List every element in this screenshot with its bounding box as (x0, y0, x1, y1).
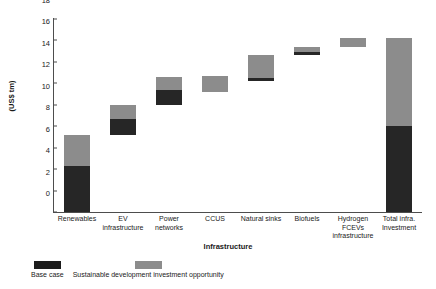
y-tick-mark (54, 169, 57, 170)
category-label: Biofuels (284, 215, 330, 224)
bar-biofuels[interactable] (294, 19, 320, 212)
bar-segment-opportunity (386, 38, 412, 126)
legend-item-opportunity: Sustainable development investment oppor… (73, 261, 224, 278)
category-label: Hydrogen FCEVs infrastructure (330, 215, 376, 241)
bar-segment-opportunity (340, 38, 366, 47)
bar-segment-base-case (110, 119, 136, 135)
y-tick-mark (54, 83, 57, 84)
bar-segment-opportunity (294, 47, 320, 52)
bar-segment-base-case (248, 78, 274, 81)
y-axis-title: (US$ tm) (7, 81, 16, 112)
y-tick-label: 16 (42, 17, 50, 26)
bar-hydrogen-fcevs-infrastructure[interactable] (340, 19, 366, 212)
bar-total-infra-investment[interactable] (386, 19, 412, 212)
bar-natural-sinks[interactable] (248, 19, 274, 212)
bar-segment-base-case (386, 126, 412, 212)
bar-segment-opportunity (156, 77, 182, 90)
bar-segment-base-case (64, 166, 90, 212)
bar-ev-infrastructure[interactable] (110, 19, 136, 212)
chart-legend: Base case Sustainable development invest… (31, 261, 224, 278)
y-tick-mark (54, 104, 57, 105)
y-axis-ticks: 024681012141618 (24, 0, 50, 193)
y-tick-mark (54, 19, 57, 20)
y-tick-mark (54, 212, 57, 213)
y-tick-mark (54, 61, 57, 62)
category-label: Renewables (54, 215, 100, 224)
y-tick-mark (54, 190, 57, 191)
bar-renewables[interactable] (64, 19, 90, 212)
category-label: EV infrastructure (100, 215, 146, 232)
waterfall-chart: (US$ tm) 024681012141618 RenewablesEV in… (0, 0, 436, 289)
y-tick-label: 10 (42, 81, 50, 90)
y-tick-mark (54, 147, 57, 148)
bar-segment-opportunity (202, 76, 228, 92)
y-tick-label: 12 (42, 60, 50, 69)
plot-area (54, 19, 422, 212)
legend-item-base-case: Base case (31, 261, 64, 278)
bar-segment-opportunity (248, 55, 274, 78)
y-tick-label: 18 (42, 0, 50, 5)
y-tick-mark (54, 40, 57, 41)
x-axis-title: Infrastructure (0, 242, 436, 251)
bar-segment-opportunity (64, 135, 90, 166)
bar-ccus[interactable] (202, 19, 228, 212)
y-tick-label: 14 (42, 38, 50, 47)
category-label: Total infra. Investment (376, 215, 422, 232)
y-tick-label: 4 (46, 146, 50, 155)
legend-swatch-opportunity-icon (135, 261, 162, 269)
y-tick-mark (54, 126, 57, 127)
bar-power-networks[interactable] (156, 19, 182, 212)
category-label: Natural sinks (238, 215, 284, 224)
x-axis-category-labels: RenewablesEV infrastructurePower network… (54, 215, 422, 243)
y-tick-label: 0 (46, 189, 50, 198)
y-tick-label: 6 (46, 124, 50, 133)
legend-swatch-base-case-icon (34, 261, 61, 269)
legend-label-opportunity: Sustainable development investment oppor… (73, 271, 224, 278)
bar-segment-base-case (294, 52, 320, 55)
y-tick-label: 8 (46, 103, 50, 112)
category-label: CCUS (192, 215, 238, 224)
x-axis-line (53, 212, 422, 213)
bar-segment-opportunity (110, 105, 136, 119)
bar-segment-base-case (156, 90, 182, 105)
legend-label-base-case: Base case (31, 271, 64, 278)
y-tick-label: 2 (46, 167, 50, 176)
category-label: Power networks (146, 215, 192, 232)
